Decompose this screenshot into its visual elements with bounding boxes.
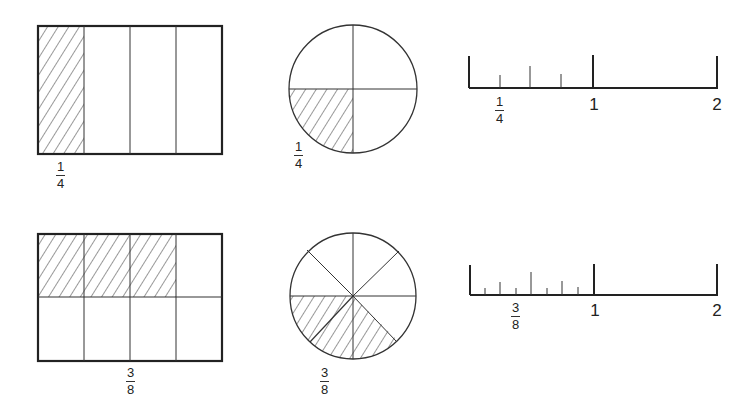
- tick-label-1: 1: [589, 96, 598, 113]
- tick-label-1: 1: [590, 302, 599, 319]
- denominator: 8: [512, 319, 519, 331]
- denominator: 8: [127, 384, 134, 396]
- rectangle-model-one-quarter: [38, 26, 222, 154]
- numerator: 3: [512, 302, 519, 314]
- tick-label-2: 2: [712, 96, 721, 113]
- denominator: 4: [295, 158, 302, 170]
- rectangle-model-three-eighths: [38, 234, 222, 361]
- tick-label-2: 2: [712, 302, 721, 319]
- circle-label-one-quarter: 1 4: [294, 141, 303, 170]
- shaded-region: [38, 26, 84, 154]
- circle-model-three-eighths: [288, 233, 416, 370]
- denominator: 4: [496, 113, 503, 125]
- circle-label-three-eighths: 3 8: [320, 367, 329, 396]
- number-line-label-one-quarter: 1 4: [495, 96, 504, 125]
- number-line-quarters: [469, 55, 718, 88]
- shaded-region: [38, 234, 176, 297]
- rectangle-label-one-quarter: 1 4: [56, 161, 65, 190]
- number-line-eighths: [470, 264, 718, 295]
- rectangle-label-three-eighths: 3 8: [126, 367, 135, 396]
- numerator: 1: [57, 161, 64, 173]
- numerator: 1: [295, 141, 302, 153]
- numerator: 3: [127, 367, 134, 379]
- number-line-label-three-eighths: 3 8: [511, 302, 520, 331]
- circle-model-one-quarter: [289, 25, 417, 153]
- numerator: 1: [496, 96, 503, 108]
- denominator: 4: [57, 178, 64, 190]
- denominator: 8: [321, 384, 328, 396]
- numerator: 3: [321, 367, 328, 379]
